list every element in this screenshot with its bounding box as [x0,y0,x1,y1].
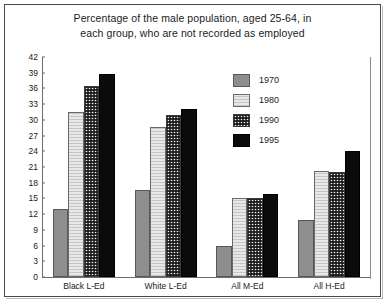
y-axis-tick-label: 0 [12,272,38,282]
legend-swatch-1995 [233,134,250,147]
y-axis-tick-label: 9 [12,225,38,235]
bar-group [43,57,125,277]
bar-1995-white-l-ed [181,109,197,277]
bar-1980-black-l-ed [68,112,84,277]
legend-swatch-1980 [233,94,250,107]
bar-1970-all-m-ed [216,246,232,277]
y-axis-tick-label: 15 [12,193,38,203]
x-axis-label-black-l-ed: Black L-Ed [63,281,104,291]
y-axis-tick-label: 6 [12,241,38,251]
legend-item-1970: 1970 [233,73,325,91]
bar-group [125,57,207,277]
bar-1980-all-h-ed [314,171,330,277]
legend-swatch-1970 [233,74,250,87]
y-axis-tick-label: 24 [12,146,38,156]
bar-1980-all-m-ed [232,198,248,277]
legend-item-1995: 1995 [233,133,325,151]
y-axis-tick-label: 3 [12,256,38,266]
x-axis-category-labels: Black L-EdWhite L-EdAll M-EdAll H-Ed [43,281,370,297]
bar-1990-all-h-ed [329,172,345,277]
bar-1970-white-l-ed [135,190,151,277]
plot-area: 03691215182124273033363942 Black L-EdWhi… [9,52,376,292]
x-axis-label-all-h-ed: All H-Ed [314,281,345,291]
y-axis-tick-label: 39 [12,68,38,78]
legend-item-1990: 1990 [233,113,325,131]
bar-1995-all-m-ed [263,194,279,277]
axes-right-edge [370,57,371,279]
bar-1995-black-l-ed [99,74,115,277]
legend-label-1980: 1980 [259,94,279,107]
bar-1995-all-h-ed [345,151,361,277]
x-axis-label-all-m-ed: All M-Ed [231,281,263,291]
y-axis-tick-label: 30 [12,115,38,125]
chart-title-line-1: Percentage of the male population, aged … [10,11,375,26]
y-axis-tick-label: 42 [12,52,38,62]
y-axis-tick-label: 36 [12,83,38,93]
chart-legend: 1970198019901995 [233,73,325,153]
chart-title-line-2: each group, who are not recorded as empl… [10,26,375,41]
bar-1990-black-l-ed [84,86,100,277]
legend-label-1970: 1970 [259,74,279,87]
x-axis-label-white-l-ed: White L-Ed [145,281,187,291]
bar-1990-all-m-ed [247,198,263,277]
legend-label-1990: 1990 [259,114,279,127]
chart-title: Percentage of the male population, aged … [10,11,375,41]
legend-swatch-1990 [233,114,250,127]
bar-1970-black-l-ed [53,209,69,277]
chart-figure: Percentage of the male population, aged … [0,0,389,307]
y-axis-tick-label: 33 [12,99,38,109]
y-axis-tick-label: 18 [12,178,38,188]
legend-label-1995: 1995 [259,134,279,147]
y-axis-tick-labels: 03691215182124273033363942 [9,52,38,278]
bar-1970-all-h-ed [298,220,314,277]
y-axis-tick-label: 21 [12,162,38,172]
bar-1990-white-l-ed [166,115,182,277]
y-axis-tick-label: 12 [12,209,38,219]
legend-item-1980: 1980 [233,93,325,111]
y-axis-tick-label: 27 [12,131,38,141]
bar-1980-white-l-ed [150,127,166,277]
